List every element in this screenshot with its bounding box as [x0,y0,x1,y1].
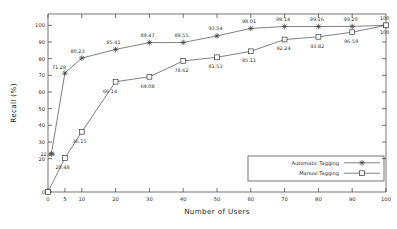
x-axis-tick-labels: 0 5 10 20 30 40 50 60 70 80 90 100 [46,196,391,202]
y-tick-label-90: 90 [38,39,45,45]
series-automatic-tagging-markers [49,23,389,157]
legend-sample-automatic-tagging [344,160,380,166]
chart-canvas: 0 20 30 40 50 60 70 80 90 100 [0,0,397,229]
y-tick-label-70: 70 [38,72,45,78]
point-label-auto-100: 100 [380,15,389,21]
point-label-manual-50: 81.53 [209,63,223,69]
point-label-auto-80: 99.16 [310,16,324,22]
x-tick-label-30: 30 [146,196,153,202]
series-manual-tagging-point-labels: 20.48 36.15 66.14 69.08 78.62 81.53 85.1… [56,29,390,170]
point-label-auto-1: 22.89 [41,151,55,157]
point-label-manual-5: 20.48 [56,164,70,170]
series-manual-tagging: 20.48 36.15 66.14 69.08 78.62 81.53 85.1… [46,23,390,195]
x-tick-label-40: 40 [180,196,187,202]
x-tick-label-70: 70 [281,196,288,202]
recall-vs-users-chart: 0 20 30 40 50 60 70 80 90 100 [0,0,397,229]
point-label-manual-60: 85.11 [242,57,256,63]
y-tick-label-100: 100 [35,22,45,28]
x-tick-label-90: 90 [349,196,356,202]
legend-sample-manual-tagging [344,171,380,176]
point-label-auto-90: 99.20 [344,16,358,22]
point-label-auto-50: 93.54 [209,25,223,31]
y-axis-title: Recall (%) [9,83,18,123]
point-label-auto-70: 99.14 [276,16,290,22]
point-label-manual-20: 66.14 [103,88,117,94]
y-tick-label-50: 50 [38,106,45,112]
point-label-manual-40: 78.62 [175,67,189,73]
x-tick-label-5: 5 [63,196,66,202]
y-tick-label-30: 30 [38,139,45,145]
y-tick-label-40: 40 [38,122,45,128]
x-tick-label-10: 10 [78,196,85,202]
x-tick-label-100: 100 [381,196,391,202]
point-label-manual-10: 36.15 [73,138,87,144]
series-manual-tagging-line [48,25,386,192]
legend-label-manual-tagging: Manual Tagging [299,170,339,177]
x-tick-label-80: 80 [315,196,322,202]
x-tick-label-0: 0 [46,196,49,202]
y-axis-tick-labels: 0 20 30 40 50 60 70 80 90 100 [35,22,45,195]
y-axis-ticks [48,25,386,192]
point-label-manual-70: 92.24 [277,45,291,51]
point-label-manual-90: 96.59 [344,38,358,44]
point-label-auto-20: 85.41 [107,39,121,45]
chart-legend: Automatic Tagging Manual Tagging [248,156,384,181]
x-tick-label-50: 50 [214,196,221,202]
x-tick-label-20: 20 [112,196,119,202]
x-axis-title: Number of Users [184,207,250,216]
y-tick-label-0: 0 [42,189,45,195]
point-label-manual-80: 93.82 [310,43,324,49]
series-automatic-tagging: 22.89 71.28 80.23 85.41 89.47 89.55 93.5… [41,15,390,158]
point-label-auto-10: 80.23 [71,48,85,54]
legend-label-automatic-tagging: Automatic Tagging [292,160,339,167]
point-label-manual-100: 100 [380,29,389,35]
point-label-manual-30: 69.08 [141,83,155,89]
point-label-auto-5: 71.28 [52,64,66,70]
y-tick-label-80: 80 [38,56,45,62]
point-label-auto-60: 98.01 [242,18,256,24]
point-label-auto-40: 89.55 [175,32,189,38]
x-tick-label-60: 60 [247,196,254,202]
series-automatic-tagging-line [51,25,386,154]
y-tick-label-60: 60 [38,89,45,95]
point-label-auto-30: 89.47 [141,32,155,38]
